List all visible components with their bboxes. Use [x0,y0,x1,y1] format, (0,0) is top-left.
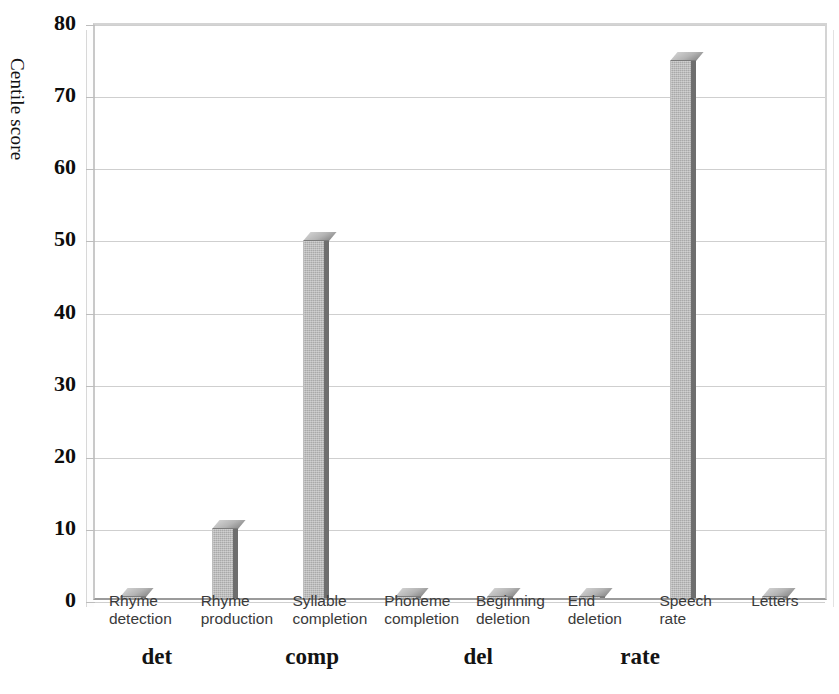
x-category-label-rhyme-production: Rhymeproduction [201,592,273,628]
group-label-rate: rate [620,644,660,670]
gridline-10 [95,530,825,531]
y-tick-label-40: 40 [14,299,76,325]
y-tick-mark-10 [86,530,95,531]
category-label-line1: Speech [659,592,712,610]
group-label-det: det [142,644,173,670]
gridline-30 [95,386,825,387]
category-label-line2: production [201,610,273,628]
category-label-line1: Beginning [476,592,545,610]
y-tick-label-20: 20 [14,443,76,469]
category-label-line2: detection [109,610,172,628]
gridline-50 [95,241,825,242]
bar-front-face [303,241,329,598]
y-tick-label-30: 30 [14,371,76,397]
bar-front-face [670,61,696,598]
y-tick-label-80: 80 [14,10,76,36]
plot-area [93,23,827,600]
bar-syllable-completion [303,241,329,598]
bar-top-face [303,232,337,241]
x-category-label-phoneme-completion: Phonemecompletion [384,592,459,628]
category-label-line1: Phoneme [384,592,459,610]
category-label-line2: deletion [568,610,622,628]
y-tick-label-10: 10 [14,515,76,541]
category-label-line2: completion [384,610,459,628]
bar-top-face [670,52,704,61]
y-tick-label-70: 70 [14,82,76,108]
group-label-del: del [464,644,493,670]
y-tick-mark-40 [86,314,95,315]
x-axis-category-labels: RhymedetectionRhymeproductionSyllablecom… [0,592,839,640]
category-label-line1: Rhyme [109,592,172,610]
x-category-label-beginning-deletion: Beginningdeletion [476,592,545,628]
y-tick-mark-70 [86,97,95,98]
x-axis-group-labels: detcompdelrate [0,644,839,684]
y-tick-label-50: 50 [14,226,76,252]
y-tick-mark-30 [86,386,95,387]
y-tick-mark-50 [86,241,95,242]
bar-front-face [212,529,238,598]
category-label-line1: Syllable [292,592,367,610]
y-tick-label-60: 60 [14,154,76,180]
category-label-line1: Rhyme [201,592,273,610]
y-tick-mark-20 [86,458,95,459]
y-tick-mark-80 [86,25,95,26]
bar-top-face [212,520,246,529]
group-label-comp: comp [285,644,339,670]
x-category-label-rhyme-detection: Rhymedetection [109,592,172,628]
category-label-line2: rate [659,610,712,628]
y-axis-tick-labels: 01020304050607080 [0,0,76,694]
x-category-label-letters: Letters [751,592,798,610]
gridline-80 [95,25,825,26]
y-tick-mark-60 [86,169,95,170]
gridline-40 [95,314,825,315]
category-label-line1: Letters [751,592,798,610]
category-label-line2: deletion [476,610,545,628]
category-label-line2: completion [292,610,367,628]
x-category-label-speech-rate: Speechrate [659,592,712,628]
category-label-line1: End [568,592,622,610]
gridline-70 [95,97,825,98]
bar-chart-figure: Centile score 01020304050607080 Rhymedet… [0,0,839,694]
gridline-20 [95,458,825,459]
bar-rhyme-production [212,529,238,598]
bar-speech-rate [670,61,696,598]
gridline-60 [95,169,825,170]
x-category-label-syllable-completion: Syllablecompletion [292,592,367,628]
x-category-label-end-deletion: Enddeletion [568,592,622,628]
